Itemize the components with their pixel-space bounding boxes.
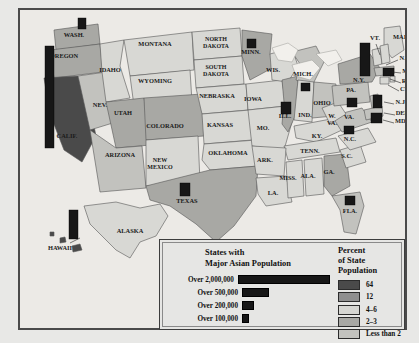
legend-percent-swatch <box>338 292 360 302</box>
legend-bar-swatch <box>238 275 330 284</box>
legend-bar-row: Over 100,000 <box>160 312 330 325</box>
population-bar-n-j- <box>373 95 382 108</box>
legend-bars-title: States with Major Asian Population <box>205 248 291 269</box>
population-bar-new-york <box>360 43 370 76</box>
legend-percent-rows: 64124–62–3Less than 2 <box>338 279 401 341</box>
legend-bars-title-line2: Major Asian Population <box>205 259 291 270</box>
legend-percent-row: 2–3 <box>338 316 401 328</box>
population-bar-texas <box>180 183 190 196</box>
state-arkansas <box>252 146 286 176</box>
population-bar-michigan <box>301 83 310 91</box>
legend-percent-swatch <box>338 329 360 339</box>
state-montana <box>124 32 194 76</box>
population-bar-washington <box>78 18 86 29</box>
legend-percent-block: Percent of State Population 64124–62–3Le… <box>338 246 401 341</box>
legend-bar-label: Over 100,000 <box>160 315 242 323</box>
legend-bar-swatch <box>242 288 269 297</box>
population-bar-pennsylvania <box>347 98 357 107</box>
legend-percent-row: Less than 2 <box>338 328 401 340</box>
map-figure: WASH.OREGONCALIF.NEV.IDAHOMONTANAWYOMING… <box>0 0 419 343</box>
legend-percent-swatch <box>338 305 360 315</box>
legend-percent-title-line2: of State <box>338 256 401 266</box>
map-legend: States with Major Asian Population Over … <box>159 239 405 330</box>
legend-percent-label: 4–6 <box>366 306 377 314</box>
state-iowa <box>246 80 286 110</box>
legend-bar-label: Over 2,000,000 <box>160 276 238 284</box>
legend-bar-label: Over 500,000 <box>160 289 242 297</box>
state-ct- <box>380 77 389 84</box>
legend-percent-label: 2–3 <box>366 318 377 326</box>
legend-percent-row: 4–6 <box>338 303 401 315</box>
legend-percent-row: 64 <box>338 279 401 291</box>
state-n-h- <box>380 44 390 64</box>
population-bar-hawaii <box>69 210 78 239</box>
population-bar-california <box>45 46 54 148</box>
legend-bar-label: Over 200,000 <box>160 302 242 310</box>
state-alabama <box>304 158 324 196</box>
legend-percent-swatch <box>338 317 360 327</box>
population-bar-md- <box>371 113 382 123</box>
state-north-dakota <box>192 28 242 60</box>
legend-percent-title: Percent of State Population <box>338 246 401 277</box>
state-mississippi <box>286 160 304 198</box>
legend-percent-label: Less than 2 <box>366 330 401 338</box>
state-oregon <box>50 44 103 78</box>
legend-bars-title-line1: States with <box>205 248 291 259</box>
legend-percent-label: 64 <box>366 281 373 289</box>
population-bar-minnesota <box>247 39 256 48</box>
population-bar-va- <box>344 126 354 134</box>
legend-bar-rows: Over 2,000,000Over 500,000Over 200,000Ov… <box>160 273 330 325</box>
state-oklahoma <box>202 140 258 170</box>
legend-percent-title-line3: Population <box>338 266 401 276</box>
legend-bar-row: Over 2,000,000 <box>160 273 330 286</box>
population-bar-illinois <box>281 102 291 114</box>
population-bar-florida <box>345 196 355 205</box>
legend-percent-row: 12 <box>338 291 401 303</box>
legend-bar-swatch <box>242 314 249 323</box>
legend-percent-title-line1: Percent <box>338 246 401 256</box>
legend-bar-swatch <box>242 301 254 310</box>
state-nebraska <box>196 84 248 114</box>
legend-bar-row: Over 500,000 <box>160 286 330 299</box>
legend-percent-label: 12 <box>366 293 373 301</box>
state-colorado <box>144 94 204 140</box>
legend-bar-row: Over 200,000 <box>160 299 330 312</box>
state-south-dakota <box>194 56 244 88</box>
legend-percent-swatch <box>338 280 360 290</box>
state-kansas <box>202 110 252 144</box>
